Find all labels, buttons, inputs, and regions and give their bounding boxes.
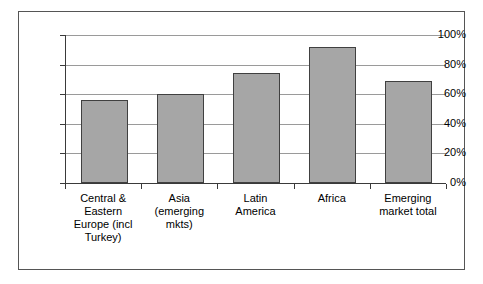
bar-0[interactable] xyxy=(81,100,128,183)
x-axis-tick-3 xyxy=(370,184,371,189)
category-label-line: market total xyxy=(363,205,453,218)
category-label-4: Emergingmarket total xyxy=(363,192,453,218)
x-axis-tick-4 xyxy=(446,184,447,189)
category-label-line: Turkey) xyxy=(58,231,148,244)
plot-area xyxy=(65,35,446,183)
plot-wrapper: 100%80%60%40%20%0% Central &EasternEurop… xyxy=(19,12,466,271)
x-axis-tick-1 xyxy=(217,184,218,189)
bar-1[interactable] xyxy=(157,94,204,183)
bar-3[interactable] xyxy=(309,47,356,183)
x-axis-tick-0 xyxy=(141,184,142,189)
category-label-line: mkts) xyxy=(134,218,224,231)
bar-2[interactable] xyxy=(233,73,280,183)
x-axis-line xyxy=(65,183,446,184)
bar-4[interactable] xyxy=(385,81,432,183)
x-axis-tick-2 xyxy=(294,184,295,189)
category-label-line: Emerging xyxy=(363,192,453,205)
chart-frame: 100%80%60%40%20%0% Central &EasternEurop… xyxy=(18,11,465,270)
category-label-line: America xyxy=(210,205,300,218)
x-axis-tick-origin xyxy=(65,184,66,189)
